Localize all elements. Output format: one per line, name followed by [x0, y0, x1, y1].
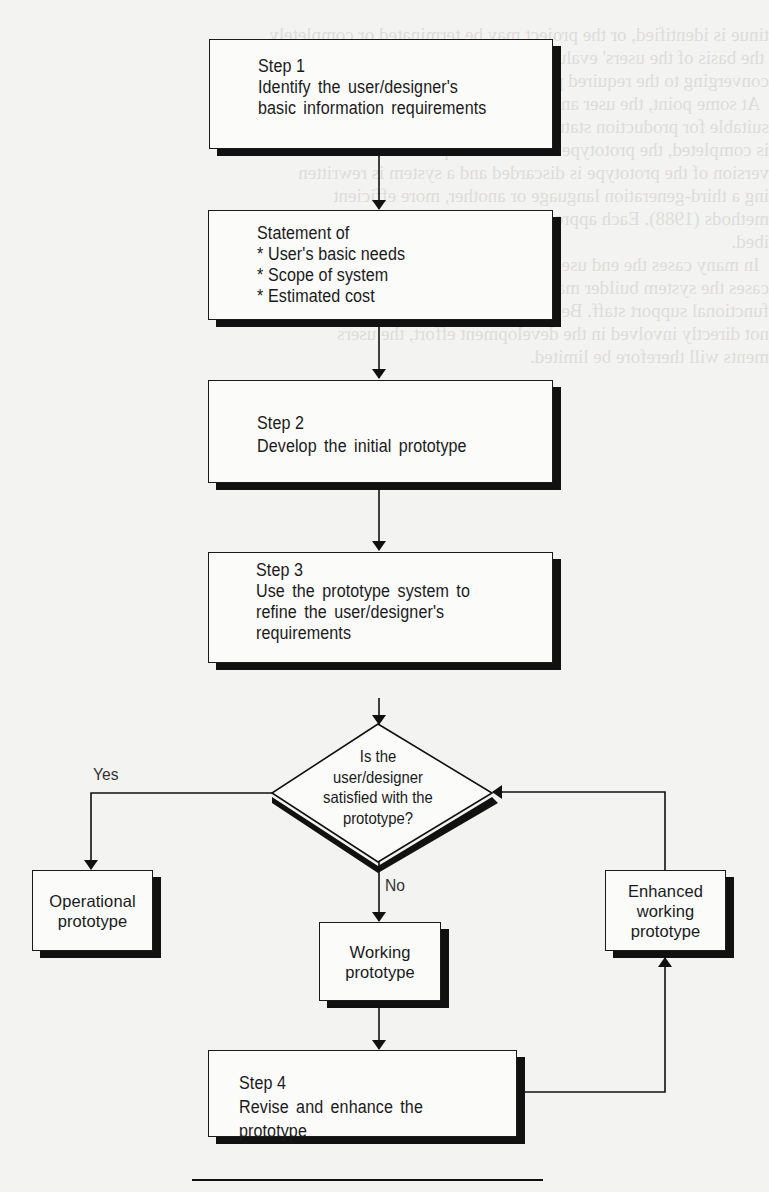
- statement-box: Statement of * User's basic needs * Scop…: [208, 210, 553, 320]
- step2-text: Develop the initial prototype: [257, 435, 467, 458]
- step3-text-line3: requirements: [256, 623, 470, 644]
- step4-title: Step 4: [239, 1071, 494, 1095]
- enhanced-working-prototype-box: Enhanced working prototype: [605, 870, 726, 951]
- arrow-yes-to-operational: [91, 793, 272, 869]
- step1-text-line1: Identify the user/designer's: [258, 77, 486, 98]
- statement-bullet-cost: * Estimated cost: [257, 286, 405, 307]
- step3-text-line2: refine the user/designer's: [256, 602, 470, 623]
- decision-line4: prototype?: [306, 808, 450, 829]
- enhanced-line2: working: [628, 901, 703, 921]
- enhanced-line1: Enhanced: [628, 881, 703, 901]
- step3-title: Step 3: [256, 560, 470, 581]
- operational-prototype-box: Operational prototype: [32, 870, 153, 951]
- step4-text: Revise and enhance the prototype: [239, 1095, 494, 1143]
- working-line1: Working: [345, 942, 415, 962]
- statement-bullet-needs: * User's basic needs: [257, 244, 405, 265]
- decision-line2: user/designer: [306, 767, 450, 788]
- decision-line1: Is the: [306, 746, 450, 767]
- no-label: No: [385, 876, 405, 896]
- step4-box: Step 4 Revise and enhance the prototype: [208, 1050, 517, 1137]
- operational-line2: prototype: [49, 911, 135, 931]
- arrow-enhanced-to-decision: [493, 792, 665, 870]
- decision-line3: satisfied with the: [306, 787, 450, 808]
- working-line2: prototype: [345, 962, 415, 982]
- step1-title: Step 1: [258, 56, 486, 77]
- working-prototype-box: Working prototype: [319, 922, 441, 1001]
- step3-text-line1: Use the prototype system to: [256, 581, 470, 602]
- step1-box: Step 1 Identify the user/designer's basi…: [209, 39, 553, 149]
- step1-text-line2: basic information requirements: [258, 98, 486, 119]
- step3-box: Step 3 Use the prototype system to refin…: [208, 552, 553, 663]
- step2-title: Step 2: [257, 412, 467, 435]
- arrow-step4-to-enhanced: [524, 958, 665, 1092]
- yes-label: Yes: [93, 765, 119, 785]
- statement-title: Statement of: [257, 223, 405, 244]
- operational-line1: Operational: [49, 891, 135, 911]
- statement-bullet-scope: * Scope of system: [257, 265, 405, 286]
- enhanced-line3: prototype: [628, 921, 703, 941]
- step2-box: Step 2 Develop the initial prototype: [208, 380, 553, 483]
- decision-text: Is the user/designer satisfied with the …: [306, 746, 450, 828]
